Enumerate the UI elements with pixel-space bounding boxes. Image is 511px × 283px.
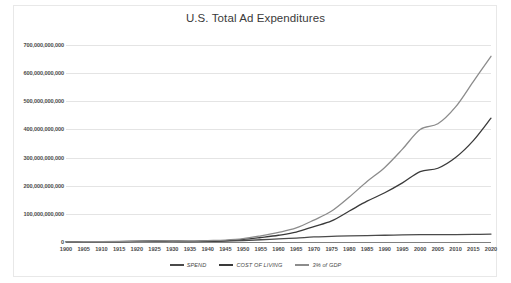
x-axis-tick-label: 1935 [184,246,196,252]
y-axis: 0100,000,000,000200,000,000,000300,000,0… [0,45,64,242]
x-axis-tick-label: 1955 [255,246,267,252]
x-axis-tick-label: 2005 [432,246,444,252]
series-line-3-of-gdp [66,56,491,242]
x-axis-tick-label: 1995 [396,246,408,252]
x-axis-tick-label: 1925 [148,246,160,252]
chart-title: U.S. Total Ad Expenditures [0,12,511,24]
legend-item[interactable]: COST OF LIVING [219,262,282,268]
x-axis-tick-label: 1940 [201,246,213,252]
y-axis-tick-label: 100,000,000,000 [2,211,64,217]
y-axis-tick-label: 0 [2,239,64,245]
x-axis-tick-label: 2010 [449,246,461,252]
y-axis-tick-label: 500,000,000,000 [2,98,64,104]
x-axis-tick-label: 1985 [361,246,373,252]
legend-swatch-icon [219,264,233,266]
x-axis-tick-label: 1920 [131,246,143,252]
x-axis-tick-label: 1950 [237,246,249,252]
legend-label: COST OF LIVING [236,262,282,268]
x-axis-tick-label: 1975 [325,246,337,252]
plot-area [66,45,491,242]
legend-item[interactable]: SPEND [170,262,207,268]
x-axis-tick-label: 1910 [95,246,107,252]
x-axis-tick-label: 2000 [414,246,426,252]
x-axis: 1900190519101915192019251930193519401945… [66,246,491,258]
x-axis-tick-label: 2020 [485,246,497,252]
y-axis-tick-label: 300,000,000,000 [2,155,64,161]
x-axis-tick-label: 1960 [272,246,284,252]
x-axis-tick-label: 1900 [60,246,72,252]
legend-item[interactable]: 3% of GDP [295,262,341,268]
x-axis-tick-label: 1965 [290,246,302,252]
chart-container: U.S. Total Ad Expenditures 0100,000,000,… [0,0,511,283]
chart-legend: SPENDCOST OF LIVING3% of GDP [0,262,511,268]
x-axis-tick-label: 2015 [467,246,479,252]
x-axis-tick-label: 1970 [308,246,320,252]
x-axis-tick-label: 1915 [113,246,125,252]
x-axis-tick-label: 1930 [166,246,178,252]
x-axis-tick-label: 1980 [343,246,355,252]
y-axis-tick-label: 200,000,000,000 [2,183,64,189]
legend-label: 3% of GDP [312,262,341,268]
x-axis-tick-label: 1905 [77,246,89,252]
x-axis-tick-label: 1990 [379,246,391,252]
x-axis-tick-label: 1945 [219,246,231,252]
chart-lines [66,45,491,242]
y-axis-tick-label: 600,000,000,000 [2,70,64,76]
legend-swatch-icon [295,264,309,266]
legend-swatch-icon [170,264,184,266]
y-axis-tick-label: 400,000,000,000 [2,126,64,132]
legend-label: SPEND [187,262,207,268]
series-line-cost-of-living [66,118,491,242]
y-axis-tick-label: 700,000,000,000 [2,42,64,48]
